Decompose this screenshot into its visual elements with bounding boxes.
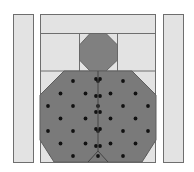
head-octagon bbox=[80, 34, 118, 72]
right-sashing-strip bbox=[164, 15, 184, 163]
left-sashing-strip bbox=[14, 15, 34, 163]
ladybug-quilt-block-diagram bbox=[0, 0, 194, 172]
